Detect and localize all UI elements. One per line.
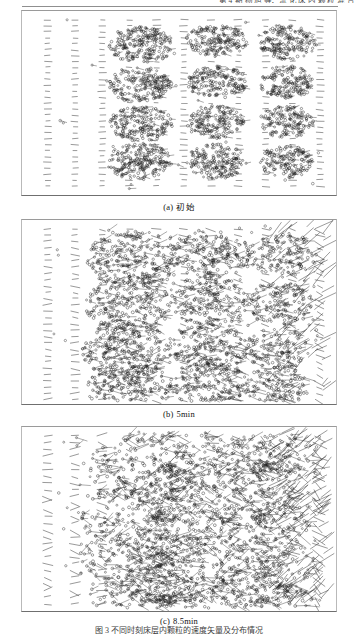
figure-panel-b <box>21 219 337 405</box>
running-head: 第 4 期 杨 旭 等：流 化 床 内 颗 粒 混 合 <box>0 0 358 3</box>
figure-panel-b-wrap: (b)5min <box>0 219 358 426</box>
figure-panel-c-wrap: (c)8.5min <box>0 426 358 633</box>
panel-b-caption: (b)5min <box>0 405 358 426</box>
figure-panel-c <box>21 426 337 612</box>
panel-a-caption: (a)初始 <box>0 196 358 219</box>
figure-caption: 图 3 不同时刻床层内颗粒的速度矢量及分布情况 <box>0 624 358 634</box>
panel-b-label: (b) <box>163 409 174 419</box>
panel-a-label: (a) <box>163 202 173 212</box>
figure-panel-a-wrap: (a)初始 <box>0 10 358 219</box>
figure-3: (a)初始 (b)5min (c)8.5min <box>0 10 358 633</box>
figure-panel-a <box>21 10 337 196</box>
panel-b-text: 5min <box>177 409 195 419</box>
panel-b-canvas <box>22 220 336 404</box>
panel-a-text: 初始 <box>176 202 194 212</box>
panel-a-canvas <box>22 11 336 195</box>
running-head-rule <box>22 6 338 7</box>
panel-c-canvas <box>22 427 336 611</box>
